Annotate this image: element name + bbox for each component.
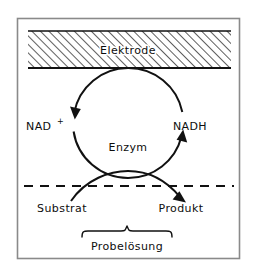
substrate-label: Substrat (37, 202, 87, 215)
enzyme-electrode-diagram: Elektrode Elektrode NAD + NADH Enzym Sub… (0, 0, 257, 276)
cycle-arc-left (74, 68, 128, 113)
product-arrowhead (173, 191, 186, 202)
probelosung-brace (82, 226, 172, 237)
diagram-canvas: Elektrode Elektrode NAD + NADH Enzym Sub… (0, 0, 257, 276)
nad-plus-label: NAD + (26, 117, 64, 133)
electrode-label: Elektrode (100, 44, 156, 57)
cycle-arc-upper-right (128, 68, 182, 112)
nadh-label: NADH (173, 120, 207, 133)
probelosung-label: Probelösung (91, 240, 163, 253)
cycle-arrowhead-left (70, 107, 81, 120)
nad-label-text: NAD (26, 120, 51, 133)
enzyme-label: Enzym (109, 141, 148, 154)
product-label: Produkt (159, 202, 204, 215)
nad-superscript-plus: + (57, 117, 64, 126)
